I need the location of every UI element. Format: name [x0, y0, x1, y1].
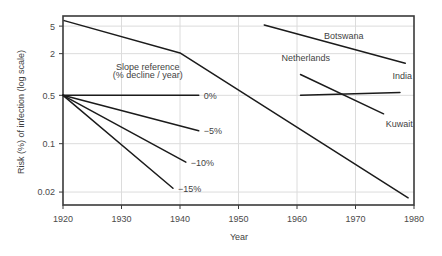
- y-axis-ticks: 520.50.10.02: [37, 22, 63, 198]
- x-tick-label: 1940: [170, 214, 190, 224]
- series-label-netherlands: Netherlands: [282, 53, 331, 63]
- x-axis-ticks: 1920193019401950196019701980: [53, 205, 424, 224]
- y-tick-label: 0.1: [42, 139, 55, 149]
- series-labels: NetherlandsBotswanaIndiaKuwait: [282, 31, 414, 129]
- reference-slope-line: [63, 95, 186, 162]
- reference-slope-label: −5%: [204, 126, 222, 136]
- y-tick-label: 5: [50, 22, 55, 32]
- slope-reference-lines: [63, 95, 199, 188]
- chart-annotations: Slope reference(% decline / year): [113, 62, 183, 80]
- annotation-text: (% decline / year): [113, 70, 183, 80]
- series-line-kuwait: [301, 74, 384, 113]
- y-tick-label: 2: [50, 49, 55, 59]
- x-tick-label: 1950: [228, 214, 248, 224]
- x-tick-label: 1960: [287, 214, 307, 224]
- reference-slope-label: −15%: [178, 184, 201, 194]
- x-tick-label: 1970: [345, 214, 365, 224]
- y-tick-label: 0.02: [37, 187, 55, 197]
- series-label-kuwait: Kuwait: [386, 119, 414, 129]
- y-tick-label: 0.5: [42, 91, 55, 101]
- reference-slope-label: 0%: [204, 91, 217, 101]
- x-tick-label: 1980: [404, 214, 424, 224]
- x-axis-title: Year: [230, 232, 248, 242]
- series-label-botswana: Botswana: [324, 31, 364, 41]
- infection-risk-log-chart: 1920193019401950196019701980 520.50.10.0…: [0, 0, 442, 256]
- y-axis-title: Risk (%) of infection (log scale): [16, 50, 26, 174]
- slope-reference-labels: 0%−5%−10%−15%: [178, 91, 222, 194]
- reference-slope-label: −10%: [191, 158, 214, 168]
- chart-container: 1920193019401950196019701980 520.50.10.0…: [0, 0, 442, 256]
- series-label-india: India: [393, 71, 413, 81]
- gridlines: [63, 16, 414, 205]
- x-tick-label: 1930: [111, 214, 131, 224]
- x-tick-label: 1920: [53, 214, 73, 224]
